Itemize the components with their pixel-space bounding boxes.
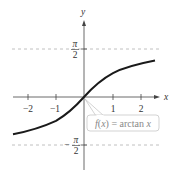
svg-text:−: − [64,140,69,150]
svg-text:π: π [74,135,79,145]
x-tick-label: 2 [139,104,144,114]
y-axis-label: y [80,7,86,17]
callout-pointer [85,99,104,116]
svg-text:π: π [73,39,78,49]
x-tick-label: 1 [111,104,116,114]
x-tick-label: −2 [23,104,33,114]
y-label-pi-half: π 2 [71,39,79,60]
x-axis-label: x [163,92,169,102]
x-axis-arrow-icon [154,95,160,99]
y-label-neg-pi-half: − π 2 [64,135,80,156]
y-axis-arrow-icon [82,20,86,26]
x-tick-label: −1 [50,104,60,114]
function-label: f(x) = arctan x [95,118,152,130]
svg-text:2: 2 [74,146,79,156]
svg-text:2: 2 [73,50,78,60]
arctan-graph: −2 −1 1 2 x y π 2 − π 2 f(x) = arctan x [0,0,174,172]
